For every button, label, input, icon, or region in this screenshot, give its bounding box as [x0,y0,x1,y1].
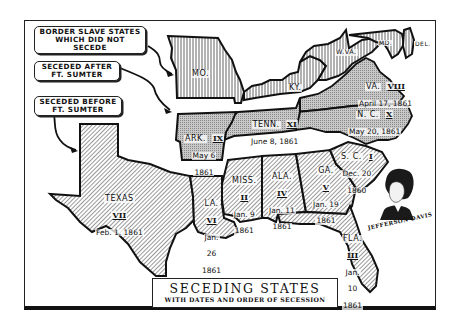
secession-date: 1861 [315,217,336,225]
state-name: ALA. [271,173,293,181]
label-missouri: MO. [191,63,210,80]
label-georgia: GA. V Jan. 19 1861 [312,160,340,227]
secession-date: Feb. 1, 1861 [95,229,144,237]
label-north-carolina: N. C. X May 20, 1861 [348,104,401,138]
label-delaware: DEL. [414,33,432,50]
secession-date: Jan. [204,234,220,242]
secession-order: IX [212,134,224,142]
secession-date: May 6 [192,152,217,160]
legend-seceded-after: SECEDED AFTER FT. SUMTER [34,61,120,81]
state-name: S. C. [340,153,363,161]
label-arkansas: ARK. IX May 6 1861 [184,128,224,178]
map-title: SECEDING STATES [153,281,337,296]
secession-date: 1861 [271,223,292,231]
label-west-virginia: W.VA. [335,49,358,56]
state-name: TEXAS [104,195,134,203]
secession-date: Dec. 20 [341,170,372,178]
label-maryland: MD. [378,32,393,49]
state-name: MD. [378,40,393,46]
state-name: W.VA. [335,49,358,56]
state-delaware [403,28,414,58]
secession-order: II [239,193,248,201]
secession-date: Jan. 19 [312,201,340,209]
legend-label-line: FT. SUMTER [38,106,118,114]
legend-label-line: WHICH DID NOT SECEDE [38,36,142,52]
secession-order: III [346,251,359,259]
secession-date: 1861 [342,302,363,310]
secession-order: VI [206,216,218,224]
label-louisiana: LA. VI Jan. 26 1861 [201,193,222,277]
state-name: MISS. [231,177,257,185]
state-name: KY. [288,84,302,92]
map-title-box: SECEDING STATES WITH DATES AND ORDER OF … [152,278,338,308]
secession-order: XI [286,120,298,128]
label-kentucky: KY. [288,77,302,94]
legend-label-line: FT. SUMTER [38,71,116,79]
secession-date: May 20, 1861 [348,128,401,136]
legend-border-slave-states: BORDER SLAVE STATES WHICH DID NOT SECEDE [34,26,146,54]
secession-date: 1860 [346,187,367,195]
secession-order: I [368,152,374,160]
label-texas: TEXAS VII Feb. 1, 1861 [95,188,144,238]
secession-order: X [385,110,393,118]
secession-date: June 8, 1861 [250,138,299,146]
secession-order: IV [276,189,288,197]
secession-date: Jan. 11 [268,207,296,215]
label-south-carolina: S. C. I Dec. 20 1860 [340,146,374,196]
secession-date: 1861 [193,169,214,177]
secession-order: VII [111,211,127,219]
label-tennessee: TENN. XI June 8, 1861 [250,114,299,148]
state-name: TENN. [252,121,281,129]
state-kentucky [244,56,326,100]
state-name: VA. [365,83,381,91]
secession-date: 26 [206,250,218,258]
state-name: FLA. [342,235,363,243]
label-mississippi: MISS. II Jan. 9 1861 [231,170,257,237]
secession-date: Jan. 9 [233,211,256,219]
secession-order: VIII [386,82,405,90]
jefferson-davis-portrait [380,169,414,220]
secession-date: 10 [347,285,359,293]
label-alabama: ALA. IV Jan. 11 1861 [268,166,296,233]
state-name: MO. [191,70,210,78]
secession-date: 1861 [234,227,255,235]
state-name: DEL. [414,41,432,47]
secession-order: V [322,183,330,191]
state-name: GA. [317,167,335,175]
secession-date: 1861 [201,267,222,275]
secession-date: Jan. [345,269,361,277]
state-name: ARK. [184,135,207,143]
map-subtitle: WITH DATES AND ORDER OF SECESSION [153,296,337,303]
legend-seceded-before: SECEDED BEFORE FT. SUMTER [34,96,122,116]
state-name: LA. [204,200,220,208]
label-florida: FLA. III Jan. 10 1861 [342,228,363,312]
state-name: N. C. [356,111,380,119]
